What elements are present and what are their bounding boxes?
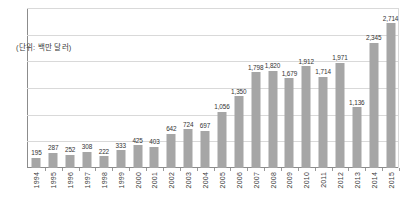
x-axis-label: 2007 — [252, 172, 259, 188]
x-axis-label: 2002 — [168, 172, 175, 188]
bar — [32, 158, 41, 168]
x-axis-tick — [365, 168, 366, 171]
bar-group: 333 — [112, 8, 129, 168]
x-axis-label: 2012 — [336, 172, 343, 188]
x-axis-label: 1999 — [117, 172, 124, 188]
bar-value-label: 222 — [99, 148, 109, 155]
bar-group: 1,714 — [315, 8, 332, 168]
bar-value-label: 1,714 — [315, 68, 331, 75]
bar-value-label: 333 — [116, 142, 126, 149]
x-axis-tick — [315, 168, 316, 171]
bar — [133, 145, 142, 168]
bar — [49, 153, 58, 168]
bar-group: 403 — [146, 8, 163, 168]
bar-value-label: 1,912 — [298, 58, 314, 65]
bar — [217, 112, 226, 168]
x-axis-label: 2005 — [218, 172, 225, 188]
x-label-slot: 2000 — [129, 172, 146, 208]
x-axis-tick — [298, 168, 299, 171]
bar-group: 195 — [28, 8, 45, 168]
bar-group: 425 — [129, 8, 146, 168]
x-axis-label: 1994 — [33, 172, 40, 188]
bar-value-label: 1,136 — [349, 99, 365, 106]
bar-value-label: 642 — [166, 125, 176, 132]
x-axis-tick — [112, 168, 113, 171]
bar — [83, 152, 92, 168]
bar — [234, 96, 243, 168]
bar-group: 287 — [45, 8, 62, 168]
bar-value-label: 195 — [31, 149, 41, 156]
x-axis-tick — [79, 168, 80, 171]
bar-group: 642 — [163, 8, 180, 168]
bar-group: 1,971 — [332, 8, 349, 168]
x-axis-tick — [348, 168, 349, 171]
x-axis-label: 1996 — [67, 172, 74, 188]
x-axis-tick — [197, 168, 198, 171]
bar-group: 1,912 — [298, 8, 315, 168]
bar — [184, 129, 193, 168]
bar — [99, 156, 108, 168]
x-label-slot: 2008 — [264, 172, 281, 208]
bar-value-label: 425 — [132, 137, 142, 144]
x-label-slot: 2001 — [146, 172, 163, 208]
x-axis-tick — [180, 168, 181, 171]
bar — [150, 147, 159, 168]
x-label-slot: 2003 — [180, 172, 197, 208]
bar-group: 1,350 — [230, 8, 247, 168]
x-label-slot: 1994 — [28, 172, 45, 208]
bar — [201, 131, 210, 168]
x-axis-tick — [163, 168, 164, 171]
bar — [116, 150, 125, 168]
x-label-slot: 2009 — [281, 172, 298, 208]
bar — [167, 134, 176, 168]
x-axis-label: 2001 — [151, 172, 158, 188]
bar-value-label: 2,345 — [366, 34, 382, 41]
bar-group: 308 — [79, 8, 96, 168]
bar-value-label: 308 — [82, 143, 92, 150]
bar-value-label: 1,679 — [282, 70, 298, 77]
bar — [352, 107, 361, 168]
x-axis-tick — [230, 168, 231, 171]
x-axis-label: 1998 — [100, 172, 107, 188]
x-axis-label: 1997 — [84, 172, 91, 188]
x-axis-tick — [62, 168, 63, 171]
x-axis-tick — [332, 168, 333, 171]
x-axis-labels: 1994199519961997199819992000200120022003… — [28, 172, 399, 208]
x-label-slot: 1995 — [45, 172, 62, 208]
x-label-slot: 2007 — [247, 172, 264, 208]
x-axis-tick — [382, 168, 383, 171]
bar-value-label: 697 — [200, 122, 210, 129]
bar-value-label: 1,056 — [214, 103, 230, 110]
bar-group: 724 — [180, 8, 197, 168]
bar — [251, 72, 260, 168]
x-axis-label: 1995 — [50, 172, 57, 188]
x-axis-tick — [247, 168, 248, 171]
bar — [319, 77, 328, 168]
bar-group: 2,345 — [365, 8, 382, 168]
x-axis-label: 2006 — [235, 172, 242, 188]
bar — [369, 43, 378, 168]
bar-value-label: 1,350 — [231, 88, 247, 95]
x-axis-tick — [45, 168, 46, 171]
bar-group: 697 — [197, 8, 214, 168]
x-axis-label: 2013 — [353, 172, 360, 188]
x-label-slot: 2004 — [197, 172, 214, 208]
x-axis-label: 2015 — [387, 172, 394, 188]
bar — [285, 78, 294, 168]
x-label-slot: 2010 — [298, 172, 315, 208]
x-axis-label: 2008 — [269, 172, 276, 188]
x-axis-tick — [129, 168, 130, 171]
x-label-slot: 2002 — [163, 172, 180, 208]
x-axis-label: 2009 — [286, 172, 293, 188]
bar — [386, 23, 395, 168]
x-label-slot: 2006 — [230, 172, 247, 208]
x-axis-tick — [214, 168, 215, 171]
bar-group: 222 — [95, 8, 112, 168]
bar-group: 1,820 — [264, 8, 281, 168]
x-axis-label: 2000 — [134, 172, 141, 188]
bar-chart: (단위: 백만 달러) 1952872523082223334254036427… — [0, 0, 406, 209]
x-label-slot: 2014 — [365, 172, 382, 208]
x-label-slot: 2013 — [348, 172, 365, 208]
bar-value-label: 1,798 — [248, 64, 264, 71]
x-axis-tick — [95, 168, 96, 171]
